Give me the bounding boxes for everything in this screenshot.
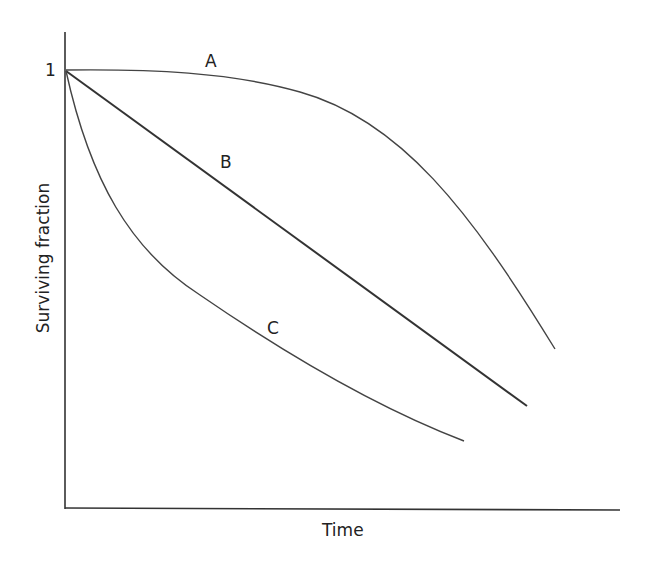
curve-c-label: C <box>267 320 279 337</box>
y-axis-label: Surviving fraction <box>33 183 53 333</box>
x-axis-label: Time <box>322 522 364 539</box>
curve-a-label: A <box>205 53 217 70</box>
curve-c <box>66 71 464 441</box>
curve-a <box>66 70 555 349</box>
y-tick-1: 1 <box>45 62 56 79</box>
x-axis <box>65 508 620 510</box>
curve-b <box>66 71 527 406</box>
chart-canvas <box>0 0 655 564</box>
curve-b-label: B <box>220 154 232 171</box>
